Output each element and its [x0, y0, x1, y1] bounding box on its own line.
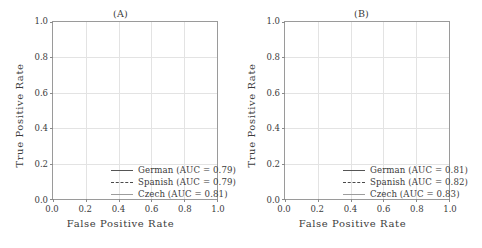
panel-a-ytick-4: 0.8 [22, 52, 48, 62]
panel-b-xtick-3: 0.6 [377, 204, 391, 214]
panel-b-ytick-1: 0.2 [254, 159, 280, 169]
panel-b-xtick-4: 0.8 [410, 204, 424, 214]
panel-b-xtick-5: 1.0 [443, 204, 457, 214]
line-sample-solid-icon [111, 165, 133, 175]
legend-item[interactable]: German (AUC = 0.79) [111, 164, 217, 176]
panel-a-xlabel: False Positive Rate [0, 218, 241, 229]
legend-item[interactable]: German (AUC = 0.81) [343, 164, 449, 176]
panel-b-legend: German (AUC = 0.81) Spanish (AUC = 0.82)… [340, 162, 452, 202]
panel-a-xtick-3: 0.6 [145, 204, 159, 214]
panel-a-xtick-5: 1.0 [211, 204, 225, 214]
legend-item[interactable]: Spanish (AUC = 0.79) [111, 176, 217, 188]
legend-label: German (AUC = 0.79) [138, 165, 236, 175]
panel-a-ylabel: True Positive Rate [14, 26, 25, 206]
line-sample-thin-icon [111, 189, 133, 199]
legend-item[interactable]: Czech (AUC = 0.83) [343, 188, 449, 200]
panel-a-xtick-1: 0.2 [78, 204, 92, 214]
legend-item[interactable]: Spanish (AUC = 0.82) [343, 176, 449, 188]
legend-item[interactable]: Czech (AUC = 0.81) [111, 188, 217, 200]
panel-a-ytick-1: 0.2 [22, 159, 48, 169]
panel-b-xlabel: False Positive Rate [232, 218, 473, 229]
roc-figure: (A) 0.0 0.2 0.4 0.6 [0, 0, 482, 248]
line-sample-solid-icon [343, 165, 365, 175]
panel-a-xtick-4: 0.8 [178, 204, 192, 214]
panel-b: (B) 0.0 0.2 0.4 0.6 [241, 0, 482, 248]
panel-a-xtick-0: 0.0 [45, 204, 59, 214]
panel-b-ytick-5: 1.0 [254, 16, 280, 26]
panel-b-ytick-3: 0.6 [254, 88, 280, 98]
panel-a-xtick-2: 0.4 [112, 204, 126, 214]
legend-label: Czech (AUC = 0.81) [138, 189, 228, 199]
panel-b-ytick-0: 0.0 [254, 195, 280, 205]
panel-b-ylabel: True Positive Rate [246, 26, 257, 206]
legend-label: Spanish (AUC = 0.79) [138, 177, 236, 187]
legend-label: Spanish (AUC = 0.82) [370, 177, 468, 187]
panel-b-xtick-0: 0.0 [277, 204, 291, 214]
line-sample-thin-icon [343, 189, 365, 199]
panel-a-ytick-5: 1.0 [22, 16, 48, 26]
panel-b-ytick-2: 0.4 [254, 123, 280, 133]
panel-b-xtick-2: 0.4 [344, 204, 358, 214]
panel-b-xtick-1: 0.2 [310, 204, 324, 214]
panel-a-ytick-2: 0.4 [22, 123, 48, 133]
panel-a: (A) 0.0 0.2 0.4 0.6 [0, 0, 241, 248]
panel-a-ytick-0: 0.0 [22, 195, 48, 205]
panel-b-ytick-4: 0.8 [254, 52, 280, 62]
legend-label: Czech (AUC = 0.83) [370, 189, 460, 199]
line-sample-dashed-icon [343, 177, 365, 187]
legend-label: German (AUC = 0.81) [370, 165, 468, 175]
line-sample-dashed-icon [111, 177, 133, 187]
panel-a-ytick-3: 0.6 [22, 88, 48, 98]
panel-a-legend: German (AUC = 0.79) Spanish (AUC = 0.79)… [108, 162, 220, 202]
